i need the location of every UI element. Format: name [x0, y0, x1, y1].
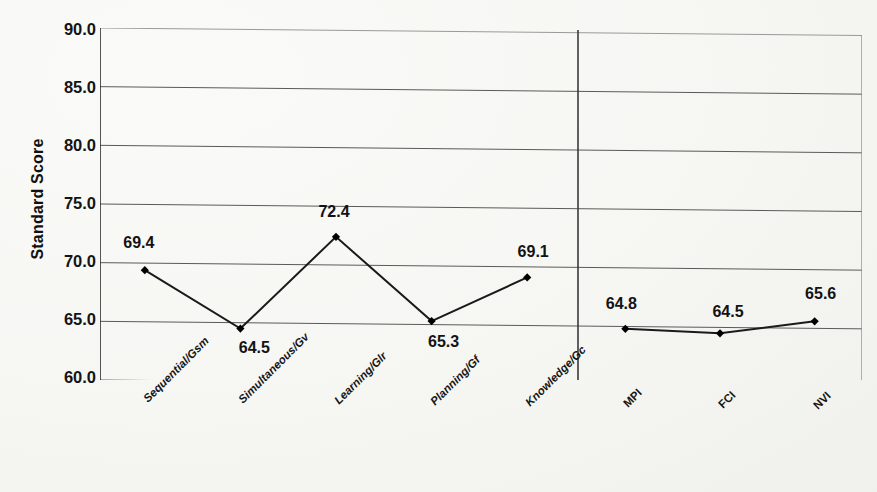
line-chart: Standard Score 90.0 85.0 80.0 75.0 70.0 … — [0, 0, 877, 492]
x-axis-label-learning-glr: Learning/Glr — [332, 350, 389, 407]
x-axis-label-knowledge-gc: Knowledge/Gc — [523, 344, 588, 409]
x-axis-label-nvi: NVI — [811, 389, 833, 411]
x-axis-label-simultaneous-gv: Simultaneous/Gv — [236, 331, 311, 406]
x-axis-label-planning-gf: Planning/Gf — [428, 354, 482, 408]
x-axis-category-labels: Sequential/GsmSimultaneous/GvLearning/Gl… — [0, 0, 877, 492]
x-axis-label-mpi: MPI — [621, 387, 644, 410]
x-axis-label-fci: FCI — [716, 389, 738, 411]
x-axis-label-sequential-gsm: Sequential/Gsm — [141, 335, 211, 405]
